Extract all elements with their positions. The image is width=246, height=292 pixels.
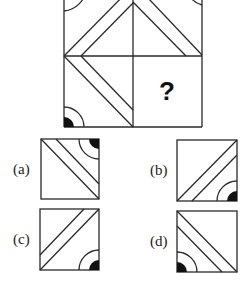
quarter-arc-icon [64, 0, 86, 11]
filled-quarter-circle-icon [64, 117, 74, 127]
cell-top-left [64, 0, 133, 56]
cell-top-right [133, 0, 202, 56]
option-a-figure[interactable] [41, 139, 99, 199]
puzzle-figure [0, 0, 246, 292]
question-mark: ? [159, 76, 175, 107]
option-b-figure[interactable] [177, 140, 237, 201]
option-a-label[interactable]: (a) [13, 161, 30, 178]
option-d-label[interactable]: (d) [150, 233, 168, 250]
cell-bottom-left [64, 56, 133, 127]
option-d-figure[interactable] [177, 211, 237, 272]
option-b-label[interactable]: (b) [150, 162, 168, 179]
option-c-figure[interactable] [40, 209, 99, 270]
option-c-label[interactable]: (c) [13, 231, 30, 248]
main-grid [64, 0, 202, 127]
quarter-arc-icon [186, 0, 202, 5]
